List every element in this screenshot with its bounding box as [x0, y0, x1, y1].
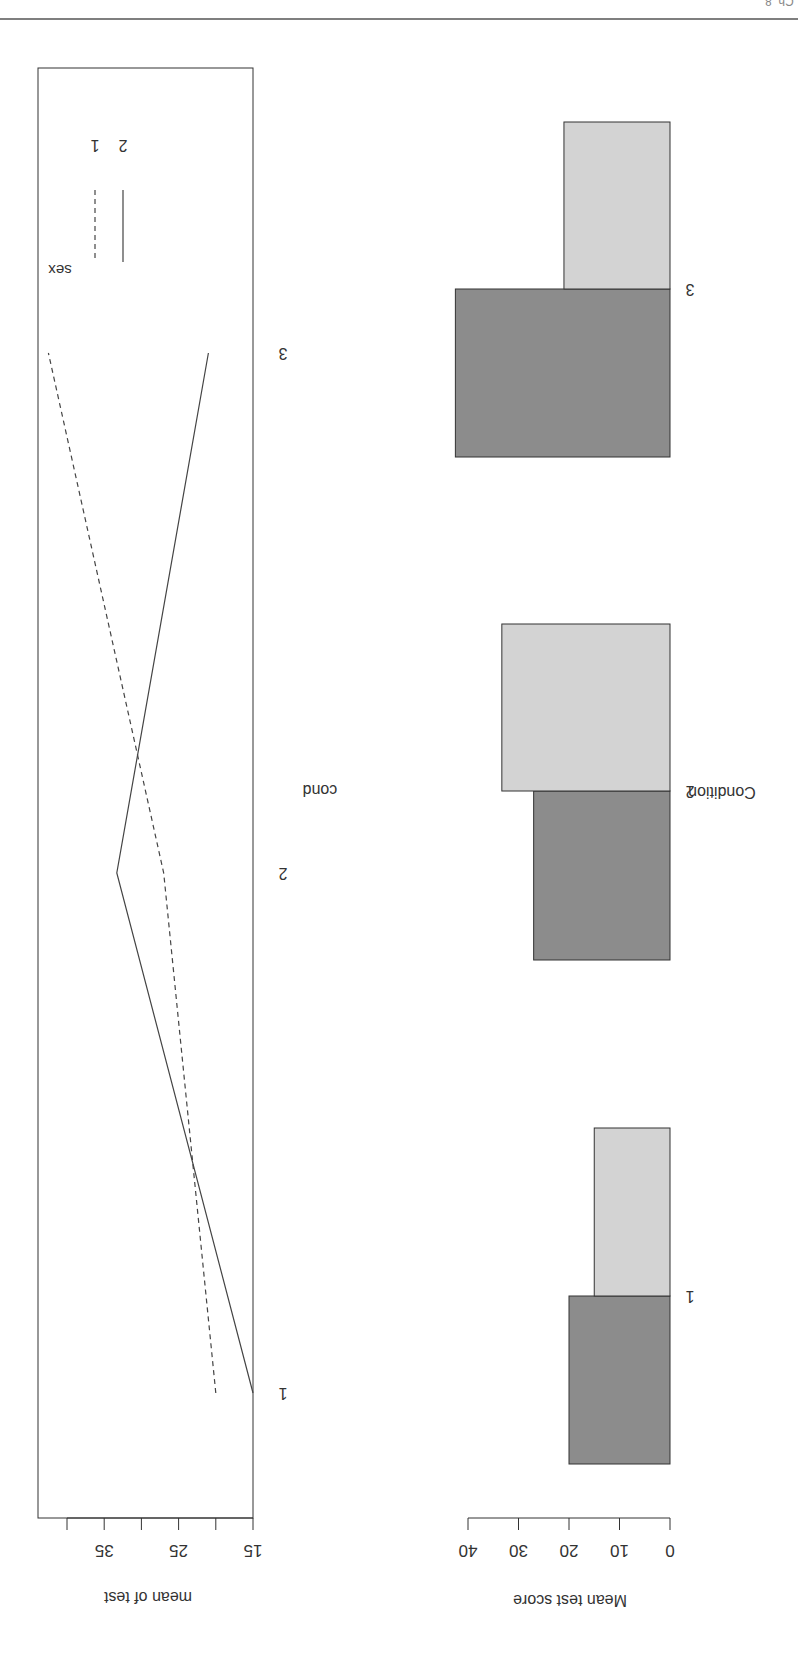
running-header: Ch. 8 [765, 0, 794, 8]
axis-title: mean of test [103, 1589, 192, 1606]
category-label: 2 [278, 865, 287, 882]
x-axis-condition: 123Condition [685, 281, 755, 1305]
tick-label: 30 [509, 1541, 528, 1560]
y-axis-mean-test-score: 010203040Mean test score [459, 1518, 675, 1609]
tick-label: 10 [610, 1541, 629, 1560]
line-series [48, 353, 253, 1393]
legend-title: sex [48, 262, 72, 279]
legend-sex: sex12 [48, 137, 128, 279]
legend-label: 2 [118, 137, 127, 154]
tick-label: 15 [244, 1541, 263, 1560]
bar-sex-1 [569, 1296, 670, 1464]
y-axis-mean-of-test: 152535mean of test [67, 1518, 262, 1606]
bar-chart-mean-test-score: 010203040Mean test score 123Condition [455, 122, 755, 1609]
axis-title: Condition [688, 784, 756, 801]
bar-sex-2 [564, 122, 670, 289]
axis-title: cond [303, 782, 338, 799]
figure: 152535mean of test 123cond sex12 0102030… [0, 0, 798, 1658]
bars [455, 122, 670, 1464]
axis-title: Mean test score [513, 1592, 627, 1609]
tick-label: 25 [169, 1541, 188, 1560]
tick-label: 20 [560, 1541, 579, 1560]
bar-sex-1 [455, 289, 670, 457]
series-line-sex-2 [117, 353, 253, 1393]
x-axis-cond: 123cond [278, 345, 337, 1402]
bar-sex-1 [534, 791, 670, 960]
rotated-book-page: Ch. 8 152535mean of test 123cond sex12 0… [0, 0, 798, 1658]
category-label: 1 [278, 1385, 287, 1402]
bar-sex-2 [502, 624, 670, 791]
interaction-line-chart: 152535mean of test 123cond sex12 [38, 68, 337, 1606]
tick-label: 40 [459, 1541, 478, 1560]
series-line-sex-1 [48, 353, 215, 1393]
bar-sex-2 [594, 1128, 670, 1296]
legend-label: 1 [90, 137, 99, 154]
tick-label: 35 [95, 1541, 114, 1560]
category-label: 3 [685, 281, 694, 298]
category-label: 3 [278, 345, 287, 362]
category-label: 1 [685, 1288, 694, 1305]
tick-label: 0 [665, 1541, 674, 1560]
